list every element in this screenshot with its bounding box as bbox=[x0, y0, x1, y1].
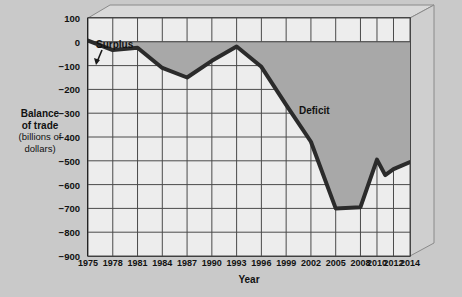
y-axis-title-line-3: (billions of bbox=[0, 131, 80, 143]
x-tick-label: 2014 bbox=[400, 258, 420, 268]
y-axis-title-line-1: Balance bbox=[0, 108, 80, 120]
y-tick-label: −500 bbox=[59, 156, 80, 165]
x-axis-tick-labels: 1975197819811984198719901993199619992002… bbox=[88, 258, 410, 274]
x-tick-label: 1981 bbox=[128, 258, 148, 268]
chart-figure: 1000−100−200−300−400−500−600−700−800−900… bbox=[0, 0, 462, 297]
y-tick-label: −900 bbox=[59, 252, 80, 261]
y-tick-label: 100 bbox=[64, 14, 80, 23]
x-tick-label: 1999 bbox=[276, 258, 296, 268]
plot-graphics bbox=[88, 18, 410, 256]
x-tick-label: 1993 bbox=[227, 258, 247, 268]
y-tick-label: 0 bbox=[75, 37, 80, 46]
x-axis-title: Year bbox=[88, 274, 410, 285]
y-tick-label: −600 bbox=[59, 180, 80, 189]
x-tick-label: 2002 bbox=[301, 258, 321, 268]
x-tick-label: 1975 bbox=[78, 258, 98, 268]
y-tick-label: −800 bbox=[59, 228, 80, 237]
y-tick-label: −100 bbox=[59, 61, 80, 70]
x-tick-label: 1990 bbox=[202, 258, 222, 268]
y-axis-title: Balance of trade (billions of dollars) bbox=[0, 108, 80, 154]
plot-area bbox=[88, 18, 410, 256]
y-axis-title-line-4: dollars) bbox=[0, 143, 80, 155]
x-tick-label: 2005 bbox=[326, 258, 346, 268]
surplus-annotation: Surplus bbox=[96, 39, 133, 50]
frame-top-face bbox=[88, 5, 434, 18]
x-tick-label: 1996 bbox=[251, 258, 271, 268]
x-tick-label: 1984 bbox=[152, 258, 172, 268]
y-axis-title-line-2: of trade bbox=[0, 120, 80, 132]
x-tick-label: 1978 bbox=[103, 258, 123, 268]
frame-right-face bbox=[410, 5, 434, 256]
x-tick-label: 1987 bbox=[177, 258, 197, 268]
deficit-annotation: Deficit bbox=[299, 105, 330, 116]
y-tick-label: −700 bbox=[59, 204, 80, 213]
y-tick-label: −200 bbox=[59, 85, 80, 94]
